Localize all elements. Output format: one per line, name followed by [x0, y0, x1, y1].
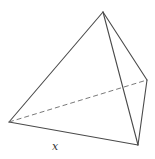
tetrahedron-diagram: x — [0, 0, 155, 159]
edge-left-bottom — [9, 122, 138, 145]
edge-top-bottom — [103, 12, 138, 145]
edge-label-x: x — [52, 140, 59, 153]
edge-top-right — [103, 12, 147, 80]
edge-right-bottom — [138, 80, 147, 145]
edge-top-left — [9, 12, 103, 122]
